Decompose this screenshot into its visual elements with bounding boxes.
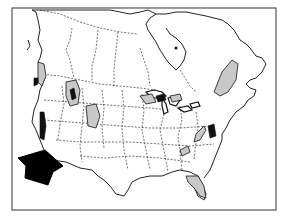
map-figure — [0, 0, 284, 220]
north-america-map — [0, 0, 284, 220]
lake-marker — [175, 47, 178, 50]
